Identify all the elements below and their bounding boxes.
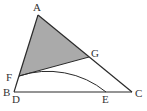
label-b: B	[3, 86, 10, 98]
label-c: C	[135, 87, 142, 99]
label-g: G	[91, 47, 99, 59]
arc-fge	[19, 71, 106, 92]
geometry-diagram: A G F B D E C	[0, 0, 147, 111]
label-e: E	[102, 93, 109, 105]
label-d: D	[12, 93, 20, 105]
label-a: A	[33, 1, 41, 13]
label-f: F	[6, 71, 12, 83]
